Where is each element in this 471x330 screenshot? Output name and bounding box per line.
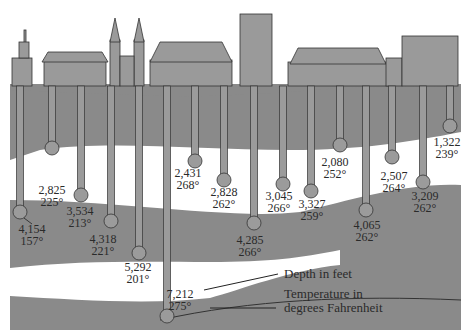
well-bulb [359, 203, 373, 217]
building-school-roof [150, 42, 232, 62]
building-townhall-roof [42, 52, 108, 62]
building-apartments-right [402, 36, 458, 86]
well-bulb [132, 246, 146, 260]
well-temperature-label: 268° [177, 178, 200, 192]
building-school [150, 60, 232, 86]
geothermal-diagram: 4,154157°2,825225°3,534213°4,318221°5,29… [0, 0, 471, 330]
building-hall-roof [290, 48, 386, 64]
well-pipe [192, 86, 199, 156]
well-bulb [304, 184, 318, 198]
well-bulb [247, 216, 261, 230]
building-church-left-tower [110, 40, 120, 86]
well-pipe [78, 86, 85, 190]
church-spire-right [134, 18, 144, 42]
well-pipe [221, 86, 228, 175]
well-bulb [104, 214, 118, 228]
well-temperature-label: 221° [92, 244, 115, 258]
legend-temp-line2: degrees Fahrenheit [284, 300, 383, 315]
well-temperature-label: 213° [69, 216, 92, 230]
well-temperature-label: 262° [356, 230, 379, 244]
well-pipe [108, 86, 115, 216]
well-bulb [13, 205, 27, 219]
building-highrise [240, 14, 272, 86]
well-pipe [17, 86, 24, 207]
well-pipe [49, 86, 56, 143]
well-temperature-label: 157° [21, 234, 44, 248]
well-pipe [420, 86, 427, 177]
well-bulb [443, 119, 457, 133]
well-pipe [363, 86, 370, 205]
well-temperature-label: 266° [268, 201, 291, 215]
building-left-tower-top [19, 42, 29, 58]
skyline [12, 14, 458, 86]
well-pipe [337, 86, 344, 140]
well-bulb [74, 188, 88, 202]
building-left-tower [12, 58, 32, 86]
well-temperature-label: 239° [436, 147, 459, 161]
building-church-body [120, 56, 134, 86]
well-pipe [389, 86, 396, 152]
well-temperature-label: 266° [239, 245, 262, 259]
well-pipe [136, 86, 143, 248]
well-temperature-label: 262° [213, 197, 236, 211]
well-pipe [251, 86, 258, 218]
well-bulb [333, 138, 347, 152]
well-temperature-label: 252° [324, 167, 347, 181]
well-temperature-label: 262° [414, 201, 437, 215]
well-temperature-label: 225° [41, 195, 64, 209]
well-temperature-label: 275° [169, 299, 192, 313]
well-bulb [385, 150, 399, 164]
well-bulb [416, 175, 430, 189]
building-church-right-tower [134, 40, 144, 86]
legend-temp-line1: Temperature in [284, 286, 363, 301]
well-pipe [164, 86, 171, 311]
building-townhall [44, 60, 106, 86]
well-temperature-label: 264° [383, 181, 406, 195]
building-hall [288, 62, 388, 86]
legend-depth-label: Depth in feet [284, 266, 352, 281]
well-pipe [280, 86, 287, 179]
well-bulb [45, 141, 59, 155]
building-house-right [386, 58, 402, 86]
well-temperature-label: 201° [127, 272, 150, 286]
well-pipe [447, 86, 454, 121]
church-spire-left [110, 18, 120, 42]
well-temperature-label: 259° [301, 209, 324, 223]
well-pipe [308, 86, 315, 186]
